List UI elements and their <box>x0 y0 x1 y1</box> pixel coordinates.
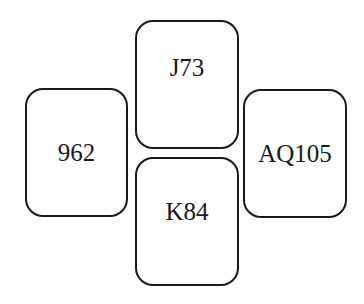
card-label: K84 <box>165 198 208 226</box>
card-label: 962 <box>58 139 96 167</box>
card-right: AQ105 <box>243 89 347 218</box>
card-top: J73 <box>135 20 239 149</box>
card-label: J73 <box>170 54 205 82</box>
card-label: AQ105 <box>258 140 332 168</box>
card-bottom: K84 <box>135 157 239 286</box>
card-left: 962 <box>25 88 128 217</box>
